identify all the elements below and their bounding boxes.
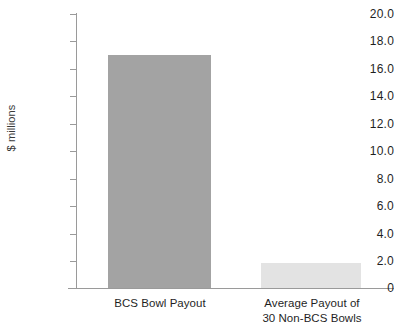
bar-bcs-bowl-payout: [108, 55, 211, 288]
x-category-label-1: Average Payout of 30 Non-BCS Bowls: [246, 296, 378, 326]
x-category-label-0-line-1: BCS Bowl Payout: [96, 296, 224, 311]
x-category-label-1-line-1: Average Payout of: [246, 296, 378, 311]
y-axis-title: $ millions: [5, 83, 17, 173]
bar-chart: $ millions 20.0 18.0 16.0 14.0 12.0 10.0…: [0, 0, 394, 335]
plot-area: [76, 14, 394, 288]
x-category-label-0: BCS Bowl Payout: [96, 296, 224, 311]
x-category-label-1-line-2: 30 Non-BCS Bowls: [246, 311, 378, 326]
bar-average-payout-non-bcs: [261, 263, 361, 288]
